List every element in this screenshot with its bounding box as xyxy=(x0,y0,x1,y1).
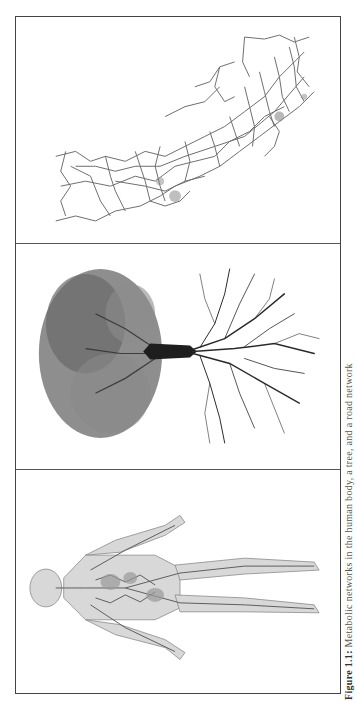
panel-tree xyxy=(16,244,340,470)
tree-trunk xyxy=(143,344,197,360)
figure-caption: Figure 1.1: Metabolic networks in the hu… xyxy=(343,0,354,700)
body-torso xyxy=(64,555,180,620)
figure-frame xyxy=(15,16,341,694)
tree-illustration xyxy=(16,244,340,469)
caption-label: Figure 1.1: xyxy=(343,650,354,700)
body-leg-upper xyxy=(175,558,319,580)
human-vascular-illustration xyxy=(16,470,340,694)
caption-text: Metabolic networks in the human body, a … xyxy=(343,363,354,647)
body-arm-upper xyxy=(86,515,185,555)
panel-human-body xyxy=(16,470,340,694)
road-network-illustration xyxy=(16,17,340,243)
body-arm-lower xyxy=(86,620,185,660)
panel-road-map xyxy=(16,17,340,244)
